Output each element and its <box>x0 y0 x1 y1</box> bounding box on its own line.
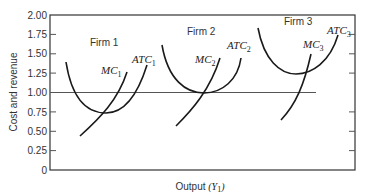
ytick-label: 1.50 <box>28 48 48 59</box>
ytick-label: 0.50 <box>28 126 48 137</box>
atc3-label: ATC3 <box>326 24 351 39</box>
mc2-label: MC2 <box>194 53 216 68</box>
mc3-label: MC3 <box>302 38 324 53</box>
cost-curves-chart: 2.00 1.75 1.50 1.25 1.00 0.75 0.50 0.25 … <box>0 0 366 196</box>
ytick-label: 0 <box>41 165 47 176</box>
mc3-curve <box>281 54 311 120</box>
atc2-label: ATC2 <box>226 39 251 54</box>
atc1-label: ATC1 <box>131 53 156 68</box>
firm-2-label: Firm 2 <box>187 26 216 37</box>
mc1-curve <box>80 72 127 136</box>
ytick-label: 2.00 <box>28 10 48 21</box>
x-axis-title: Output (Y1) <box>175 181 225 194</box>
mc1-label: MC1 <box>100 64 122 79</box>
y-axis-labels: 2.00 1.75 1.50 1.25 1.00 0.75 0.50 0.25 … <box>28 10 48 176</box>
ytick-label: 0.75 <box>28 107 48 118</box>
y-axis-title: Cost and revenue <box>8 52 19 131</box>
firm-3-label: Firm 3 <box>284 16 313 27</box>
ytick-label: 1.75 <box>28 29 48 40</box>
ytick-label: 1.00 <box>28 87 48 98</box>
atc3-curve <box>258 28 338 74</box>
ytick-label: 0.25 <box>28 145 48 156</box>
firm-1-label: Firm 1 <box>90 37 119 48</box>
ytick-label: 1.25 <box>28 68 48 79</box>
